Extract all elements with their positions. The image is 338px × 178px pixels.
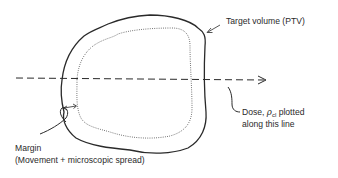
margin-label-detail: (Movement + microscopic spread)	[15, 155, 145, 166]
dose-label-line-2: along this line	[242, 119, 295, 130]
ptv-label: Target volume (PTV)	[226, 16, 305, 27]
dose-profile-line	[16, 78, 264, 80]
inner-contour-ctv	[77, 28, 192, 138]
dose-label-prefix: Dose,	[242, 107, 267, 117]
outer-contour-ptv	[61, 15, 206, 153]
dose-label: Dose, ρcl plotted	[242, 107, 304, 118]
ptv-leader-line	[208, 25, 220, 32]
dose-leader-line	[228, 87, 240, 112]
margin-label-title: Margin	[15, 143, 41, 154]
dose-label-suffix: plotted	[276, 107, 304, 117]
